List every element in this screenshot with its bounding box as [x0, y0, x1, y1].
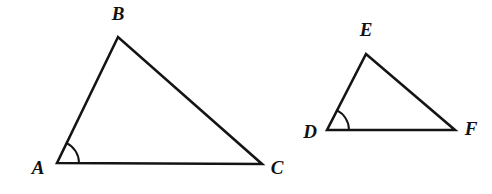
vertex-label-c: C [271, 157, 284, 178]
vertex-label-e: E [359, 19, 373, 40]
triangle-abc: A B C [31, 3, 284, 178]
vertex-label-f: F [464, 118, 478, 139]
triangle-abc-outline [57, 37, 262, 164]
angle-arc-a [67, 143, 79, 163]
geometry-diagram-canvas: A B C D E F [0, 0, 492, 194]
vertex-label-d: D [302, 121, 317, 142]
vertex-label-b: B [111, 3, 125, 24]
angle-arc-d [337, 110, 349, 130]
vertex-label-a: A [31, 157, 45, 178]
geometry-figure: A B C D E F [0, 0, 492, 194]
triangle-def: D E F [302, 19, 478, 142]
